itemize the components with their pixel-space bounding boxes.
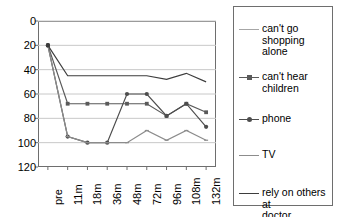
legend-label-line1: phone	[262, 113, 291, 125]
legend-label: TV	[262, 149, 275, 161]
x-axis-tick-label: 48m	[131, 184, 143, 205]
x-axis-tick-label: 108m	[190, 177, 202, 205]
legend-label-line1: TV	[262, 149, 275, 161]
legend-swatch-icon	[239, 73, 259, 83]
legend-item-1: can't hearchildren	[239, 71, 331, 94]
legend-label: can't goshopping alone	[262, 23, 331, 58]
x-axis-tick-label: 132m	[210, 177, 222, 205]
legend-label-line2: doctor	[262, 210, 331, 217]
legend-swatch-icon	[239, 25, 259, 35]
legend-item-2: phone	[239, 113, 331, 125]
legend-label-line2: shopping alone	[262, 35, 331, 58]
legend-label-line2: children	[262, 83, 308, 95]
legend-label: can't hearchildren	[262, 71, 308, 94]
chart-legend: can't goshopping alonecan't hearchildren…	[233, 6, 333, 206]
legend-item-0: can't goshopping alone	[239, 23, 331, 58]
legend-label-line1: can't hear	[262, 71, 308, 83]
x-axis-tick-label: 11m	[72, 184, 84, 205]
line-chart: 120100806040200 pre11m18m36m48m72m96m108…	[0, 0, 340, 217]
legend-swatch-icon	[239, 115, 259, 125]
x-axis-tick-label: 72m	[151, 184, 163, 205]
x-axis-tick-label: 18m	[91, 184, 103, 205]
x-axis-tick-label: pre	[52, 189, 64, 205]
legend-label-line1: rely on others at	[262, 187, 331, 210]
legend-item-4: rely on others atdoctor	[239, 187, 331, 217]
x-axis-tick-label: 96m	[171, 184, 183, 205]
legend-swatch-icon	[239, 189, 259, 199]
x-axis-tick-label: 36m	[111, 184, 123, 205]
legend-label: phone	[262, 113, 291, 125]
legend-swatch-icon	[239, 151, 259, 161]
legend-label-line1: can't go	[262, 23, 331, 35]
legend-label: rely on others atdoctor	[262, 187, 331, 217]
legend-item-3: TV	[239, 149, 331, 161]
